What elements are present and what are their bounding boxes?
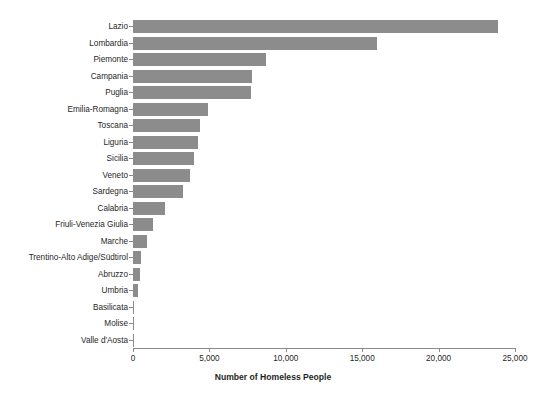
bar-row: Molise <box>133 315 515 332</box>
x-axis-tick-label: 0 <box>93 354 173 363</box>
category-label: Basilicata <box>0 299 128 316</box>
bar-row: Friuli-Venezia Giulia <box>133 216 515 233</box>
bar-row: Sicilia <box>133 150 515 167</box>
bar <box>133 20 498 33</box>
category-label: Veneto <box>0 167 128 184</box>
category-label: Friuli-Venezia Giulia <box>0 216 128 233</box>
bar <box>133 235 147 248</box>
x-axis-tick <box>209 348 210 352</box>
x-axis-tick-label: 10,000 <box>246 354 326 363</box>
bar <box>133 268 140 281</box>
category-label: Liguria <box>0 134 128 151</box>
bar <box>133 301 134 314</box>
bar-row: Campania <box>133 68 515 85</box>
x-axis-tick <box>286 348 287 352</box>
x-axis-tick-label: 5,000 <box>169 354 249 363</box>
x-axis-tick-label: 15,000 <box>322 354 402 363</box>
bar-row: Trentino-Alto Adige/Südtirol <box>133 249 515 266</box>
bar-row: Umbria <box>133 282 515 299</box>
bar <box>133 334 134 347</box>
bar-row: Liguria <box>133 134 515 151</box>
bar <box>133 70 252 83</box>
category-label: Lazio <box>0 18 128 35</box>
bar <box>133 185 183 198</box>
x-axis-title: Number of Homeless People <box>0 372 546 382</box>
bar-row: Piemonte <box>133 51 515 68</box>
bar <box>133 202 165 215</box>
bar-row: Basilicata <box>133 299 515 316</box>
bar-row: Veneto <box>133 167 515 184</box>
category-label: Puglia <box>0 84 128 101</box>
category-label: Campania <box>0 68 128 85</box>
category-label: Lombardia <box>0 35 128 52</box>
bar <box>133 53 266 66</box>
category-label: Trentino-Alto Adige/Südtirol <box>0 249 128 266</box>
category-label: Molise <box>0 315 128 332</box>
bar <box>133 152 194 165</box>
bar <box>133 37 377 50</box>
category-label: Marche <box>0 233 128 250</box>
category-label: Calabria <box>0 200 128 217</box>
bar <box>133 103 208 116</box>
x-axis-tick <box>133 348 134 352</box>
bar <box>133 169 190 182</box>
bar-row: Toscana <box>133 117 515 134</box>
category-label: Valle d'Aosta <box>0 332 128 349</box>
category-label: Piemonte <box>0 51 128 68</box>
category-label: Sardegna <box>0 183 128 200</box>
category-label: Umbria <box>0 282 128 299</box>
bar <box>133 317 134 330</box>
bar-row: Marche <box>133 233 515 250</box>
bar <box>133 136 198 149</box>
bar-row: Valle d'Aosta <box>133 332 515 349</box>
bar <box>133 86 251 99</box>
bar-row: Lazio <box>133 18 515 35</box>
bar-row: Lombardia <box>133 35 515 52</box>
bar-row: Abruzzo <box>133 266 515 283</box>
category-label: Sicilia <box>0 150 128 167</box>
homeless-people-bar-chart: LazioLombardiaPiemonteCampaniaPugliaEmil… <box>0 0 546 398</box>
x-axis-tick-label: 20,000 <box>399 354 479 363</box>
bar <box>133 119 200 132</box>
category-label: Abruzzo <box>0 266 128 283</box>
bar <box>133 218 153 231</box>
x-axis-tick <box>439 348 440 352</box>
x-axis-line <box>133 348 515 349</box>
x-axis-tick <box>515 348 516 352</box>
x-axis-tick <box>362 348 363 352</box>
bar-row: Emilia-Romagna <box>133 101 515 118</box>
bar <box>133 251 141 264</box>
plot-area: LazioLombardiaPiemonteCampaniaPugliaEmil… <box>133 18 515 348</box>
bar-row: Puglia <box>133 84 515 101</box>
x-axis-tick-label: 25,000 <box>475 354 546 363</box>
category-label: Emilia-Romagna <box>0 101 128 118</box>
bar <box>133 284 138 297</box>
bar-row: Calabria <box>133 200 515 217</box>
category-label: Toscana <box>0 117 128 134</box>
bar-row: Sardegna <box>133 183 515 200</box>
